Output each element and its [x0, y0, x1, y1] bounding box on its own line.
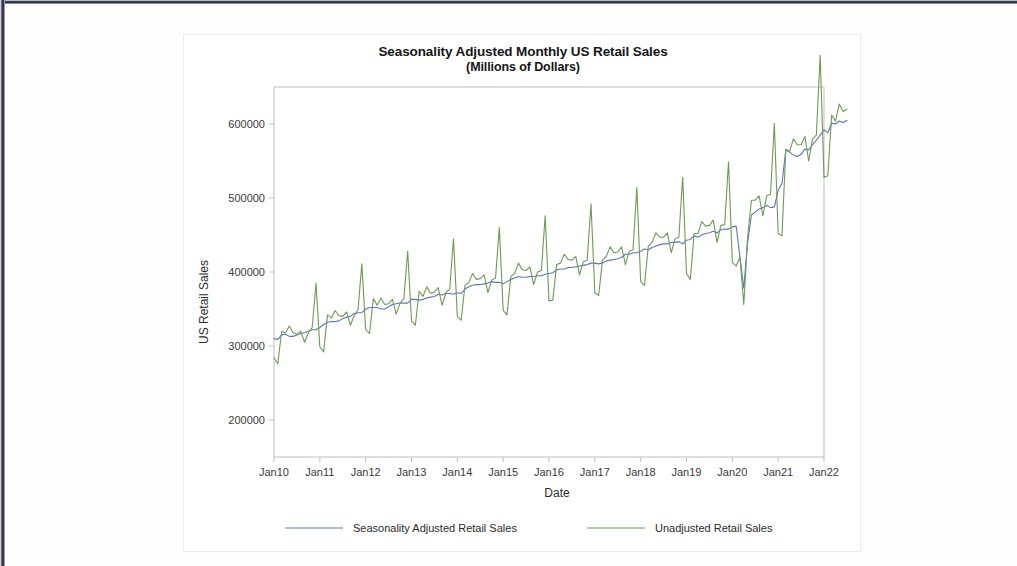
x-axis-ticks: Jan10Jan11Jan12Jan13Jan14Jan15Jan16Jan17…: [259, 457, 839, 478]
x-tick-label: Jan17: [580, 466, 610, 478]
x-tick-label: Jan12: [351, 466, 381, 478]
y-tick-label: 600000: [228, 118, 265, 130]
plot-area-wrapper: 200000300000400000500000600000 Jan10Jan1…: [184, 35, 862, 553]
document-page: Seasonality Adjusted Monthly US Retail S…: [5, 4, 1017, 566]
x-tick-label: Jan15: [488, 466, 518, 478]
y-tick-label: 200000: [228, 414, 265, 426]
y-tick-label: 500000: [228, 192, 265, 204]
legend-label: Seasonality Adjusted Retail Sales: [353, 522, 517, 534]
line-chart: 200000300000400000500000600000 Jan10Jan1…: [184, 35, 862, 553]
figure-container: Seasonality Adjusted Monthly US Retail S…: [183, 34, 861, 552]
x-tick-label: Jan18: [626, 466, 656, 478]
legend-label: Unadjusted Retail Sales: [655, 522, 773, 534]
y-tick-label: 400000: [228, 266, 265, 278]
y-axis-title: US Retail Sales: [197, 260, 211, 344]
series-line-seasonality-adjusted-retail-sales: [274, 120, 847, 339]
x-tick-label: Jan21: [763, 466, 793, 478]
x-axis-title: Date: [544, 486, 570, 500]
series-group: [274, 55, 847, 364]
x-tick-label: Jan10: [259, 466, 289, 478]
x-tick-label: Jan22: [809, 466, 839, 478]
y-axis-ticks: 200000300000400000500000600000: [228, 118, 274, 426]
x-tick-label: Jan14: [442, 466, 472, 478]
x-tick-label: Jan20: [717, 466, 747, 478]
x-tick-label: Jan19: [672, 466, 702, 478]
y-tick-label: 300000: [228, 340, 265, 352]
x-tick-label: Jan11: [305, 466, 334, 478]
x-tick-label: Jan13: [397, 466, 427, 478]
series-line-unadjusted-retail-sales: [274, 55, 847, 364]
x-tick-label: Jan16: [534, 466, 564, 478]
chart-legend: Seasonality Adjusted Retail SalesUnadjus…: [285, 522, 773, 534]
